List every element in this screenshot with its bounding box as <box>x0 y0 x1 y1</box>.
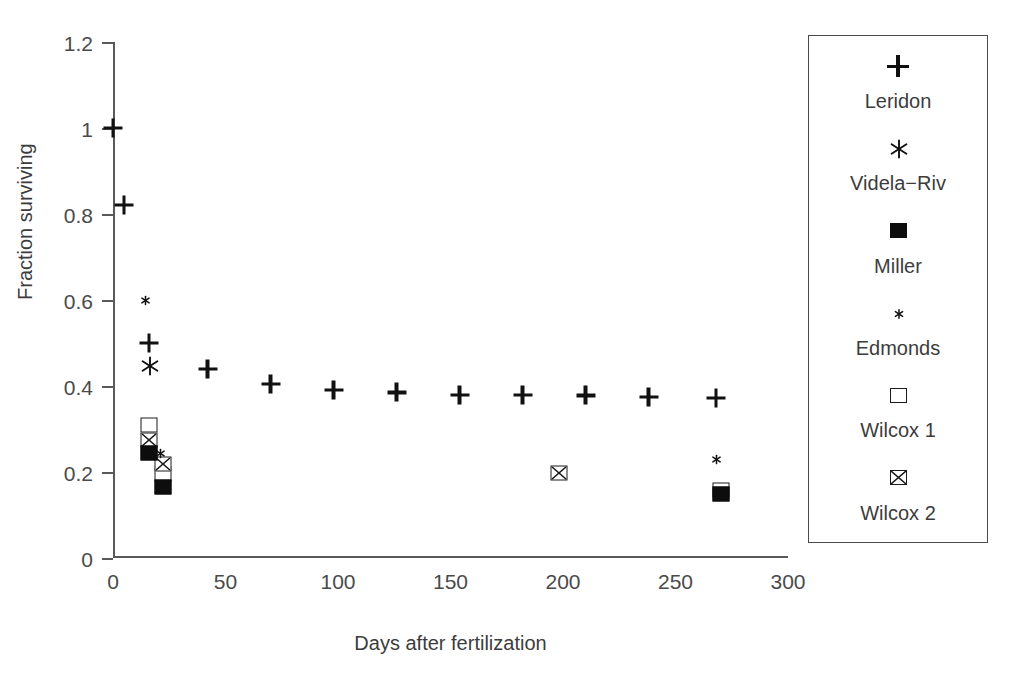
data-point-wilcox-2 <box>550 466 567 481</box>
y-axis-tick-label: 0.4 <box>64 376 93 397</box>
y-axis-tick-label: 0.6 <box>64 290 93 311</box>
data-point-leridon <box>639 387 658 406</box>
y-axis-tick-label: 1.2 <box>64 32 93 53</box>
data-point-leridon <box>140 334 159 353</box>
x-axis-tick-label: 100 <box>320 571 355 592</box>
y-axis-tick-label: 0.8 <box>64 204 93 225</box>
data-point-leridon <box>324 381 343 400</box>
legend-label: Edmonds <box>856 338 941 358</box>
y-axis-tick: 1.2 <box>102 42 113 44</box>
legend-label: Wilcox 2 <box>860 503 936 523</box>
legend-entry: Edmonds <box>809 302 987 358</box>
legend-label: Leridon <box>865 91 932 111</box>
legend-entry: Miller <box>809 220 987 276</box>
data-point-leridon <box>115 196 134 215</box>
asterisk-icon <box>889 139 907 157</box>
legend-symbol <box>887 55 909 77</box>
data-point-leridon <box>450 385 469 404</box>
chart-figure: 00.20.40.60.811.2 050100150200250300 Fra… <box>0 0 1017 689</box>
legend-symbol <box>887 384 909 406</box>
data-point-edmonds <box>156 448 165 457</box>
data-point-leridon <box>576 386 595 405</box>
legend-entry: Wilcox 1 <box>809 384 987 440</box>
x-axis-tick-label: 200 <box>545 571 580 592</box>
crossed-square-icon <box>890 470 907 485</box>
x-axis-tick-label: 150 <box>433 571 468 592</box>
legend-symbol <box>887 302 909 324</box>
data-point-edmonds <box>712 455 721 464</box>
legend-entry: Wilcox 2 <box>809 467 987 523</box>
legend: LeridonVidela−RivMillerEdmondsWilcox 1Wi… <box>808 35 988 543</box>
y-axis-tick-label: 1 <box>81 118 93 139</box>
y-axis-tick-label: 0.2 <box>64 462 93 483</box>
y-axis-tick: 0.2 <box>102 472 113 474</box>
data-point-wilcox-1 <box>141 417 158 432</box>
y-axis-tick: 0 <box>102 558 113 560</box>
legend-label: Wilcox 1 <box>860 420 936 440</box>
data-point-leridon <box>198 359 217 378</box>
data-point-leridon <box>104 119 123 138</box>
x-axis-line <box>113 556 788 558</box>
data-point-edmonds <box>140 296 149 305</box>
data-point-leridon <box>513 385 532 404</box>
x-axis-tick-label: 0 <box>107 571 119 592</box>
x-axis-tick-label: 50 <box>214 571 237 592</box>
data-point-leridon <box>261 374 280 393</box>
y-axis-tick-label: 0 <box>81 548 93 569</box>
x-axis-title: Days after fertilization <box>113 632 788 655</box>
data-point-miller <box>154 480 171 495</box>
y-axis-tick: 0.6 <box>102 300 113 302</box>
legend-label: Miller <box>874 256 922 276</box>
y-axis-title: Fraction surviving <box>14 143 37 300</box>
legend-label: Videla−Riv <box>850 173 946 193</box>
plot-area: 00.20.40.60.811.2 050100150200250300 <box>113 42 788 558</box>
small-asterisk-icon <box>894 309 903 318</box>
x-axis-tick-label: 250 <box>658 571 693 592</box>
y-axis-tick: 0.4 <box>102 386 113 388</box>
filled-square-icon <box>890 223 907 238</box>
legend-symbol <box>887 220 909 242</box>
plus-icon <box>889 57 908 76</box>
data-point-leridon <box>387 383 406 402</box>
data-point-miller <box>712 487 729 502</box>
legend-entry: Videla−Riv <box>809 137 987 193</box>
legend-symbol <box>887 137 909 159</box>
y-axis-tick: 0.8 <box>102 214 113 216</box>
data-point-videla-riv <box>140 356 158 374</box>
legend-symbol <box>887 467 909 489</box>
legend-entry: Leridon <box>809 55 987 111</box>
data-point-leridon <box>707 388 726 407</box>
x-axis-tick-label: 300 <box>770 571 805 592</box>
open-square-icon <box>890 388 907 403</box>
